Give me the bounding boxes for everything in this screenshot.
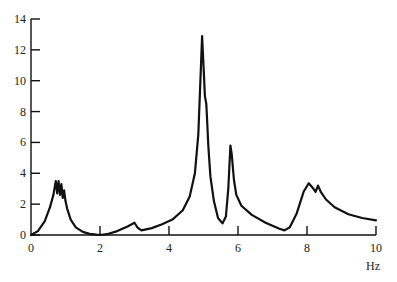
y-tick-label: 10 bbox=[14, 74, 26, 88]
x-axis-label: Hz bbox=[366, 259, 380, 273]
x-tick-label: 8 bbox=[304, 241, 310, 255]
spectrum-chart: 02468101214 0246810 Hz bbox=[0, 0, 397, 282]
y-axis: 02468101214 bbox=[14, 12, 40, 242]
y-tick-label: 2 bbox=[20, 197, 26, 211]
x-tick-label: 2 bbox=[97, 241, 103, 255]
y-tick-label: 0 bbox=[20, 228, 26, 242]
x-tick-label: 0 bbox=[28, 241, 34, 255]
spectrum-curve bbox=[31, 36, 376, 235]
y-tick-label: 4 bbox=[20, 166, 26, 180]
x-tick-label: 6 bbox=[235, 241, 241, 255]
y-tick-label: 12 bbox=[14, 43, 26, 57]
x-tick-label: 4 bbox=[166, 241, 172, 255]
y-tick-label: 6 bbox=[20, 135, 26, 149]
x-tick-label: 10 bbox=[370, 241, 382, 255]
y-tick-label: 14 bbox=[14, 12, 26, 26]
y-tick-label: 8 bbox=[20, 105, 26, 119]
